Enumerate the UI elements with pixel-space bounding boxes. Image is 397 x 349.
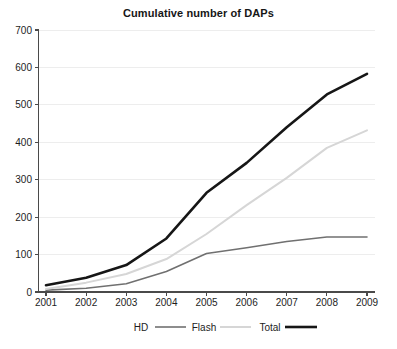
chart-container: Cumulative number of DAPs 01002003004005… <box>0 0 397 349</box>
x-tick-label: 2008 <box>316 297 339 308</box>
x-tick-label: 2004 <box>155 297 178 308</box>
y-tick-label: 500 <box>15 99 32 110</box>
x-tick-label: 2001 <box>35 297 58 308</box>
series-lines <box>46 74 367 290</box>
legend-label-flash: Flash <box>192 322 216 333</box>
x-tick-label: 2005 <box>195 297 218 308</box>
gridlines <box>39 30 376 255</box>
y-tick-label: 300 <box>15 174 32 185</box>
y-tick-label: 700 <box>15 25 32 36</box>
chart-legend: HDFlashTotal <box>134 322 317 333</box>
legend-label-total: Total <box>259 322 280 333</box>
x-tick-label: 2002 <box>75 297 98 308</box>
y-tick-label: 100 <box>15 249 32 260</box>
y-axis: 0100200300400500600700 <box>15 25 38 298</box>
series-line-flash <box>46 130 367 289</box>
chart-plot-area: 0100200300400500600700 20012002200320042… <box>0 0 397 349</box>
y-tick-label: 200 <box>15 212 32 223</box>
series-line-hd <box>46 237 367 290</box>
x-tick-label: 2009 <box>356 297 379 308</box>
x-tick-label: 2003 <box>115 297 138 308</box>
y-tick-label: 0 <box>26 287 32 298</box>
x-tick-label: 2006 <box>236 297 259 308</box>
y-tick-label: 400 <box>15 137 32 148</box>
y-tick-label: 600 <box>15 62 32 73</box>
legend-label-hd: HD <box>134 322 148 333</box>
x-tick-label: 2007 <box>276 297 299 308</box>
x-axis: 200120022003200420052006200720082009 <box>35 292 379 308</box>
